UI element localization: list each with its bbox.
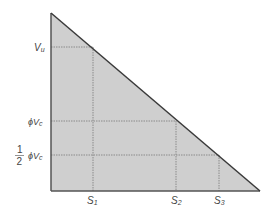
label-vu: Vu: [34, 42, 45, 53]
label-half-num: 1: [17, 144, 23, 155]
label-half-phi-vc: ϕVc: [28, 151, 43, 161]
label-phi-vc: ϕVc: [28, 117, 43, 127]
label-s3: S3: [214, 195, 225, 206]
shear-diagram: Vu ϕVc 1 2 ϕVc S1 S2 S3: [0, 0, 280, 216]
label-half-den: 2: [17, 156, 23, 167]
label-s2: S2: [171, 195, 182, 206]
label-s1: S1: [87, 195, 98, 206]
